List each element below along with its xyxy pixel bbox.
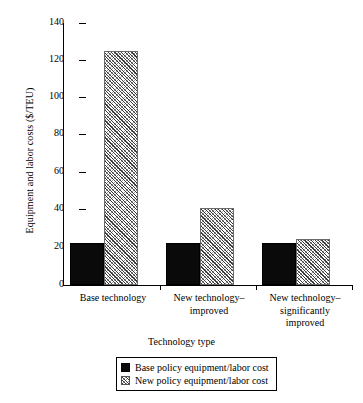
x-axis-label-new-technology-improved: New technology– improved (154, 292, 264, 317)
x-axis-separator-3 (352, 285, 353, 290)
y-tick-label-120: 120 (34, 53, 64, 64)
legend-swatch-hatch-icon (121, 376, 130, 385)
y-tick-100: 100 (22, 97, 64, 98)
bar-new-policy-new-technology-improved (200, 208, 234, 285)
y-tick-140: 140 (22, 23, 64, 24)
x-axis-separator-1 (160, 285, 161, 290)
y-tick-label-100: 100 (34, 90, 64, 101)
y-tick-label-140: 140 (34, 16, 64, 27)
y-tick-120: 120 (22, 60, 64, 61)
y-tick-80: 80 (22, 134, 64, 135)
bar-group-new-technology-improved (160, 23, 256, 285)
y-axis-title: Equipment and labor costs ($/TEU) (24, 46, 35, 276)
legend-label-new-policy: New policy equipment/labor cost (135, 375, 268, 386)
bar-group-base-technology (64, 23, 160, 285)
legend-entry-new-policy: New policy equipment/labor cost (121, 374, 269, 387)
bar-base-policy-new-technology-improved (166, 243, 200, 285)
bar-chart-figure: Equipment and labor costs ($/TEU) 140 12… (0, 0, 363, 403)
legend-entry-base-policy: Base policy equipment/labor cost (121, 361, 269, 374)
y-tick-label-80: 80 (34, 127, 64, 138)
x-axis-label-line: improved (250, 317, 360, 330)
bar-new-policy-new-technology-significantly-improved (296, 239, 330, 285)
x-axis-line (63, 285, 353, 286)
x-axis-title: Technology type (0, 336, 363, 347)
x-axis-label-line: Base technology (58, 292, 168, 305)
x-axis-label-new-technology-significantly-improved: New technology– significantly improved (250, 292, 360, 330)
x-axis-label-line: significantly (250, 305, 360, 318)
y-tick-60: 60 (22, 172, 64, 173)
bar-base-policy-new-technology-significantly-improved (262, 243, 296, 285)
legend-label-base-policy: Base policy equipment/labor cost (135, 362, 269, 373)
x-axis-label-line: New technology– (250, 292, 360, 305)
y-tick-label-40: 40 (34, 202, 64, 213)
x-axis-label-line: New technology– (154, 292, 264, 305)
y-tick-20: 20 (22, 247, 64, 248)
y-tick-label-60: 60 (34, 165, 64, 176)
x-axis-separator-2 (256, 285, 257, 290)
x-axis-label-line: improved (154, 305, 264, 318)
x-axis-label-base-technology: Base technology (58, 292, 168, 305)
bar-new-policy-base-technology (104, 51, 138, 285)
y-tick-0: 0 (22, 285, 64, 286)
y-tick-40: 40 (22, 209, 64, 210)
plot-area (64, 23, 353, 285)
y-tick-label-0: 0 (34, 278, 64, 289)
chart-legend: Base policy equipment/labor cost New pol… (116, 357, 277, 391)
y-tick-label-20: 20 (34, 240, 64, 251)
bar-base-policy-base-technology (70, 243, 104, 285)
bar-group-new-technology-significantly-improved (256, 23, 352, 285)
legend-swatch-solid-icon (121, 363, 130, 372)
